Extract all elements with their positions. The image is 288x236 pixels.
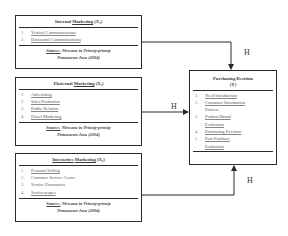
item-label: Sales Promotion (31, 98, 60, 105)
source-line-2: Pemasaran Jasa (2004) (16, 207, 141, 215)
source-line: Source: Nirwana in Prinsip-prinsip (16, 124, 141, 132)
list-item: 3.Product/Brand (190, 113, 276, 120)
source-line: Source: Nirwana in Prinsip-prinsip (16, 47, 141, 55)
item-number (195, 121, 205, 128)
source-text: Nirwana in Prinsip-prinsip (62, 201, 111, 206)
list-item: 1.Personal Selling (16, 167, 141, 174)
hypothesis-label-bottom: H (247, 176, 253, 185)
list-item: 2.Consumer Information (190, 99, 276, 106)
item-number: 4. (21, 189, 31, 196)
divider (19, 89, 138, 90)
box-title: Eksternal Marketing (X₂) (16, 81, 141, 87)
item-label: Public Relation (31, 105, 58, 112)
item-label: Evaluation (205, 143, 224, 150)
source-line-2: Pemasaran Jasa (2004) (16, 54, 141, 62)
interactive-marketing-box: Interactive Marketing (X₃) 1.Personal Se… (15, 153, 142, 222)
list-item: 1.Advertising (16, 91, 141, 98)
item-number: 1. (21, 29, 31, 36)
list-item: 4.Direct Marketing (16, 113, 141, 120)
item-number: 1. (195, 92, 205, 99)
item-label: Evaluation (205, 121, 224, 128)
arrow-interactive-to-purchasing (142, 166, 234, 195)
title-underlined: Marketing (74, 81, 95, 86)
item-label: Consumer Information (205, 99, 245, 106)
title-word: Interactive (52, 157, 73, 162)
purchasing-decision-box: Purchasing Decision (Y) 1.Need Introduct… (189, 70, 277, 165)
item-number: 3. (21, 181, 31, 188)
list-item: 4.Purchasing Decision (190, 128, 276, 135)
arrow-internal-to-purchasing (142, 42, 231, 69)
title-variable: (X₃) (97, 157, 105, 162)
list-item: 5.Post-Purchase (190, 135, 276, 142)
item-number: 2. (21, 36, 31, 43)
item-number: 2. (195, 99, 205, 106)
divider (19, 45, 138, 46)
item-number: 1. (21, 91, 31, 98)
box-title: Internal Marketing (X₁) (16, 19, 141, 25)
source-label: Source: (46, 125, 60, 130)
hypothesis-label-middle: H (171, 102, 177, 111)
item-number: 2. (21, 174, 31, 181)
item-number: 4. (21, 113, 31, 120)
item-number: 5. (195, 135, 205, 142)
list-item: 3.Public Relation (16, 105, 141, 112)
item-label: Customer Service Center (31, 174, 75, 181)
item-label: Servicescapes (31, 189, 56, 196)
source-text: Nirwana in Prinsip-prinsip (62, 48, 111, 53)
external-marketing-box: Eksternal Marketing (X₂) 1.Advertising 2… (15, 77, 142, 146)
list-item: 1.Need Introduction (190, 92, 276, 99)
item-label: Post-Purchase (205, 135, 230, 142)
divider (193, 90, 273, 91)
list-item: 2.Horizontal Communications (16, 36, 141, 43)
item-number: 4. (195, 128, 205, 135)
title-underlined: Marketing (75, 157, 96, 162)
hypothesis-label-top: H (244, 48, 250, 57)
divider (19, 122, 138, 123)
item-number: 3. (195, 113, 205, 120)
item-number: 3. (21, 105, 31, 112)
item-label: Service Encounters (31, 181, 65, 188)
list-item: Evaluation (190, 143, 276, 150)
source-text: Nirwana in Prinsip-prinsip (62, 125, 111, 130)
list-item: Process (190, 106, 276, 113)
item-label: Need Introduction (205, 92, 237, 99)
title-variable: (X₂) (96, 81, 104, 86)
list-item: 2.Sales Promotion (16, 98, 141, 105)
item-label: Vertical Communications (31, 29, 76, 36)
item-label: Purchasing Decision (205, 128, 241, 135)
divider (193, 151, 273, 152)
item-label: Advertising (31, 91, 52, 98)
item-label: Horizontal Communications (31, 36, 81, 43)
box-title-variable: (Y) (190, 82, 276, 88)
divider (19, 27, 138, 28)
list-item: 2.Customer Service Center (16, 174, 141, 181)
title-variable: (X₁) (94, 19, 102, 24)
source-label: Source: (46, 201, 60, 206)
item-number: 2. (21, 98, 31, 105)
item-number (195, 143, 205, 150)
list-item: 4.Servicescapes (16, 189, 141, 196)
source-line: Source: Nirwana in Prinsip-prinsip (16, 200, 141, 208)
item-number (195, 106, 205, 113)
title-word: Eksternal (53, 81, 72, 86)
list-item: Evaluation (190, 121, 276, 128)
list-item: 1.Vertical Communications (16, 29, 141, 36)
title-underlined: Marketing (72, 19, 93, 24)
source-label: Source: (46, 48, 60, 53)
item-label: Direct Marketing (31, 113, 61, 120)
divider (19, 198, 138, 199)
list-item: 3.Service Encounters (16, 181, 141, 188)
source-line-2: Pemasaran Jasa (2004) (16, 131, 141, 139)
item-label: Product/Brand (205, 113, 231, 120)
item-label: Process (205, 106, 218, 113)
internal-marketing-box: Internal Marketing (X₁) 1.Vertical Commu… (15, 15, 142, 69)
title-word: Internal (55, 19, 71, 24)
box-title: Interactive Marketing (X₃) (16, 157, 141, 163)
item-number: 1. (21, 167, 31, 174)
divider (19, 165, 138, 166)
item-label: Personal Selling (31, 167, 60, 174)
